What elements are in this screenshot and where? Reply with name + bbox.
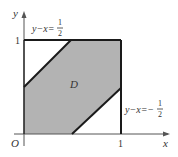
equation-lower-num: 1 bbox=[158, 99, 162, 108]
equation-lower: y−x=− 1 2 bbox=[124, 99, 163, 119]
x-axis-arrow-icon bbox=[163, 132, 170, 137]
region-label: D bbox=[69, 78, 78, 90]
equation-lower-den: 2 bbox=[158, 110, 162, 119]
equation-upper-lhs: y−x= bbox=[31, 23, 54, 34]
diagram-canvas: y x O 1 1 D y−x= 1 2 y−x=− 1 2 bbox=[0, 0, 178, 157]
y-axis-label: y bbox=[12, 7, 18, 19]
y-tick-label: 1 bbox=[15, 35, 20, 46]
equation-upper-den: 2 bbox=[58, 29, 62, 38]
x-axis-label: x bbox=[162, 137, 168, 149]
equation-lower-lhs: y−x=− bbox=[124, 104, 154, 115]
x-tick-label: 1 bbox=[118, 138, 123, 149]
y-axis-arrow-icon bbox=[22, 11, 27, 18]
equation-upper-num: 1 bbox=[58, 18, 62, 27]
equation-upper: y−x= 1 2 bbox=[31, 18, 63, 38]
origin-label: O bbox=[11, 137, 19, 149]
